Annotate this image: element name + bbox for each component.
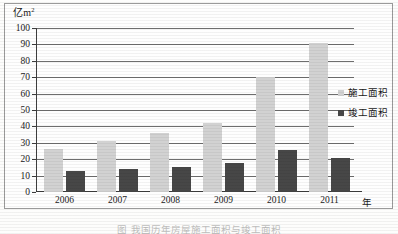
- y-axis-tick-label: 30: [21, 138, 31, 148]
- y-axis-tick-label: 50: [21, 106, 31, 116]
- x-axis-tick-label: 2011: [302, 195, 358, 205]
- bar-construction-area: [256, 77, 275, 192]
- bar-construction-area: [203, 123, 222, 192]
- y-axis-tick-label: 80: [21, 56, 31, 66]
- y-axis-tick-mark: [32, 192, 36, 193]
- y-axis-tick-label: 0: [25, 188, 30, 198]
- plot-area: 0102030405060708090100 20062007200820092…: [36, 28, 354, 192]
- legend-item: 施工面积: [338, 88, 398, 98]
- bar-group: [256, 28, 297, 192]
- legend-swatch-icon: [338, 90, 344, 96]
- bar-construction-area: [97, 141, 116, 192]
- y-axis-tick-label: 100: [16, 24, 30, 34]
- bar-completed-area: [119, 169, 138, 192]
- bar-group: [44, 28, 85, 192]
- bar-groups: [36, 28, 354, 192]
- y-axis-tick-label: 70: [21, 73, 31, 83]
- y-axis-tick-label: 40: [21, 122, 31, 132]
- legend-label: 施工面积: [348, 88, 388, 98]
- legend-label: 竣工面积: [348, 108, 388, 118]
- bar-completed-area: [225, 163, 244, 192]
- bar-completed-area: [278, 150, 297, 192]
- bar-group: [150, 28, 191, 192]
- y-axis-unit-label: 亿m2: [13, 4, 35, 18]
- legend-swatch-icon: [338, 110, 344, 116]
- bar-construction-area: [150, 133, 169, 192]
- bar-completed-area: [172, 167, 191, 192]
- x-axis-tick-label: 2007: [90, 195, 146, 205]
- bar-group: [97, 28, 138, 192]
- x-axis-tick-label: 2006: [37, 195, 93, 205]
- bar-group: [203, 28, 244, 192]
- x-axis-unit-label: 年: [362, 195, 372, 209]
- chart-figure: 亿m2 0102030405060708090100 2006200720082…: [0, 0, 398, 234]
- y-axis-tick-label: 10: [21, 171, 31, 181]
- y-axis-unit-exponent: 2: [31, 6, 34, 13]
- chart-legend: 施工面积竣工面积: [338, 88, 398, 128]
- x-axis-tick-label: 2008: [143, 195, 199, 205]
- legend-item: 竣工面积: [338, 108, 398, 118]
- bar-construction-area: [309, 43, 328, 192]
- bar-construction-area: [44, 149, 63, 192]
- bar-completed-area: [66, 171, 85, 192]
- y-axis-tick-label: 20: [21, 155, 31, 165]
- bar-completed-area: [331, 158, 350, 192]
- x-axis-tick-label: 2010: [249, 195, 305, 205]
- y-axis-tick-label: 60: [21, 89, 31, 99]
- x-axis-tick-label: 2009: [196, 195, 252, 205]
- figure-caption: 图 我国历年房屋施工面积与竣工面积: [0, 224, 398, 234]
- y-axis-unit-text: 亿m: [13, 7, 31, 18]
- y-axis-tick-label: 90: [21, 40, 31, 50]
